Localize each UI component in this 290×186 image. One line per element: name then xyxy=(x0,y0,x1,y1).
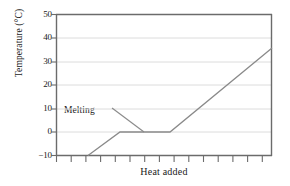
gridlines xyxy=(56,38,272,132)
x-axis-ticks xyxy=(57,156,263,162)
plot-area xyxy=(0,0,290,186)
data-line-heating-curve xyxy=(88,48,272,156)
melting-leader-line xyxy=(112,108,144,132)
y-axis-ticks xyxy=(51,15,56,156)
heating-curve-chart: Temperature (°C) 50 40 30 20 10 0 −10 Me… xyxy=(0,0,290,186)
